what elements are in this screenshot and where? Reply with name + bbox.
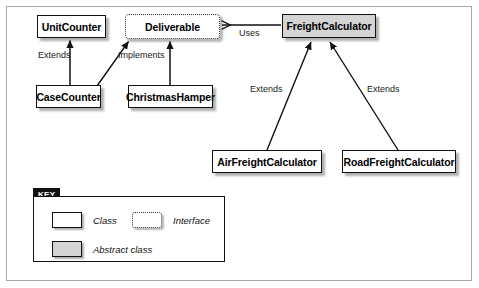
legend-item-abstract-class: Abstract class [52,241,152,257]
edge-label-extends-road-freight: Extends [367,84,400,94]
legend-label-class: Class [93,215,117,226]
node-label-road-freight-calculator: RoadFreightCalculator [343,156,454,168]
edge-label-implements-deliverable: Implements [118,50,165,60]
legend-label-abstract-class: Abstract class [93,244,152,255]
node-label-case-counter: CaseCounter [36,91,100,103]
node-label-freight-calculator: FreightCalculator [286,20,371,32]
node-road-freight-calculator[interactable]: RoadFreightCalculator [342,150,456,173]
legend-swatch-class [52,212,82,228]
node-case-counter[interactable]: CaseCounter [36,85,101,108]
edge-label-uses: Uses [239,28,260,38]
legend-label-interface: Interface [173,215,210,226]
key-legend-box: Class Interface Abstract class [33,196,225,262]
node-air-freight-calculator[interactable]: AirFreightCalculator [212,150,322,173]
edge-label-extends-unit-counter: Extends [38,50,71,60]
node-label-unit-counter: UnitCounter [42,21,102,33]
node-deliverable[interactable]: Deliverable [125,14,220,39]
legend-item-class: Class [52,212,117,228]
diagram-canvas: UnitCounter (vertical) --> Deliverable (… [0,0,479,288]
legend-swatch-abstract-class [52,241,82,257]
node-label-christmas-hamper: ChristmasHamper [126,91,215,103]
node-label-deliverable: Deliverable [145,21,200,33]
node-freight-calculator[interactable]: FreightCalculator [282,14,376,38]
node-christmas-hamper[interactable]: ChristmasHamper [128,85,213,108]
legend-swatch-interface [132,212,162,228]
legend-item-interface: Interface [132,212,210,228]
edge-label-extends-air-freight: Extends [250,84,283,94]
node-label-air-freight-calculator: AirFreightCalculator [217,156,317,168]
node-unit-counter[interactable]: UnitCounter [37,15,106,38]
